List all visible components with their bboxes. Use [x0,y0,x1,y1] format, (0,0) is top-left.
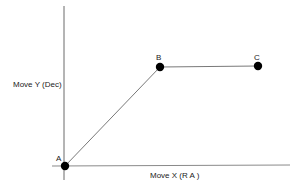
point-a-marker [61,162,69,170]
point-c-marker [254,62,262,70]
y-axis-label: Move Y (Dec) [13,80,62,89]
path-segment-b-c [160,66,258,67]
point-a-label: A [56,154,61,163]
diagram-canvas [0,0,299,188]
point-b-marker [156,63,164,71]
x-axis [52,165,290,166]
path-segment-a-b [65,67,160,166]
point-c-label: C [254,53,260,62]
x-axis-label: Move X (R A ) [150,171,199,180]
point-b-label: B [156,53,161,62]
